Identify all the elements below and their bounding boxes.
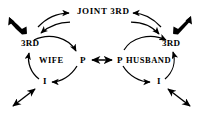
joint-third-links-group (38, 13, 161, 34)
edge-joint-to-wife-3rd (41, 22, 70, 33)
external-arrow-bottom-right-icon (168, 89, 190, 106)
edge-joint-to-husband-3rd (131, 22, 159, 34)
edge-husband-p-to-3rd (124, 36, 166, 50)
edge-wife-p-to-i (52, 66, 77, 82)
relationship-cycle-diagram: JOINT 3RD 3RD 3RD WIFE P P HUSBAND I I (0, 0, 201, 113)
node-label-husband: HUSBAND (126, 56, 171, 65)
edge-husband-p-to-i (123, 66, 150, 82)
node-label-third-left: 3RD (21, 39, 39, 48)
node-label-i-left: I (43, 77, 47, 86)
external-arrow-bottom-left-icon (13, 89, 35, 106)
node-label-joint-3rd: JOINT 3RD (77, 7, 130, 16)
edge-wife-i-to-3rd (28, 53, 39, 79)
node-label-i-right: I (157, 77, 161, 86)
node-label-wife: WIFE (39, 56, 64, 65)
external-arrow-top-right-icon (173, 16, 192, 35)
edge-wife-3rd-to-p (34, 36, 76, 51)
node-label-third-right: 3RD (162, 39, 180, 48)
external-arrow-top-left-icon (8, 17, 27, 35)
node-label-p-left: P (80, 56, 86, 65)
node-label-p-right: P (117, 56, 123, 65)
